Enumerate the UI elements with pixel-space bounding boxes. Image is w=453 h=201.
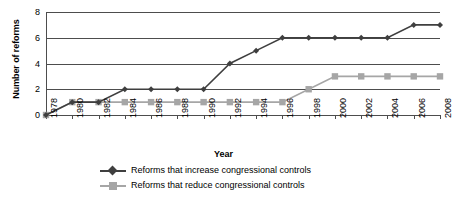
x-tick-label: 1998 <box>313 98 322 118</box>
series-marker-square <box>358 73 364 79</box>
legend-label-reduce: Reforms that reduce congressional contro… <box>131 180 305 191</box>
y-tick-label: 4 <box>22 60 40 69</box>
x-tick-label: 1988 <box>181 98 190 118</box>
x-tick <box>99 115 100 119</box>
x-tick-label: 1986 <box>155 98 164 118</box>
legend-label-increase: Reforms that increase congressional cont… <box>131 165 311 176</box>
x-tick <box>309 115 310 119</box>
x-tick <box>361 115 362 119</box>
x-tick-label: 1984 <box>129 98 138 118</box>
legend-marker-diamond-icon <box>100 165 126 176</box>
x-tick <box>72 115 73 119</box>
x-tick-label: 2004 <box>391 98 400 118</box>
x-tick <box>387 115 388 119</box>
x-tick-label: 1996 <box>286 98 295 118</box>
series-marker-diamond <box>358 35 364 41</box>
y-tick-label: 2 <box>22 85 40 94</box>
x-tick-label: 2008 <box>444 98 453 118</box>
series-marker-diamond <box>306 35 312 41</box>
x-tick <box>151 115 152 119</box>
x-tick-label: 1994 <box>260 98 269 118</box>
x-tick <box>282 115 283 119</box>
series-marker-square <box>305 86 311 92</box>
legend-marker-square-icon <box>100 180 126 191</box>
x-tick-label: 2002 <box>365 98 374 118</box>
x-tick <box>440 115 441 119</box>
x-tick-label: 2006 <box>418 98 427 118</box>
series-marker-square <box>411 73 417 79</box>
x-tick <box>230 115 231 119</box>
series-marker-square <box>384 73 390 79</box>
series-marker-square <box>200 99 206 105</box>
legend-item-increase: Reforms that increase congressional cont… <box>0 163 447 178</box>
x-tick-label: 1992 <box>234 98 243 118</box>
x-tick-label: 1978 <box>50 98 59 118</box>
x-tick <box>256 115 257 119</box>
series-marker-diamond <box>253 48 259 54</box>
x-tick-label: 1990 <box>208 98 217 118</box>
series-marker-diamond <box>174 86 180 92</box>
x-tick <box>125 115 126 119</box>
series-marker-diamond <box>384 35 390 41</box>
y-tick-label: 8 <box>22 8 40 17</box>
x-tick-label: 1980 <box>76 98 85 118</box>
x-tick-label: 2000 <box>339 98 348 118</box>
legend-item-reduce: Reforms that reduce congressional contro… <box>0 178 447 193</box>
x-tick-label: 1982 <box>103 98 112 118</box>
series-marker-diamond <box>148 86 154 92</box>
y-tick-label: 6 <box>22 34 40 43</box>
series-marker-diamond <box>122 86 128 92</box>
chart-legend: Reforms that increase congressional cont… <box>0 163 447 193</box>
x-tick <box>414 115 415 119</box>
x-axis-title: Year <box>0 149 447 159</box>
series-marker-square <box>437 73 443 79</box>
y-tick-label: 0 <box>22 111 40 120</box>
series-marker-diamond <box>279 35 285 41</box>
x-tick <box>177 115 178 119</box>
series-marker-diamond <box>411 22 417 28</box>
x-tick <box>204 115 205 119</box>
series-marker-diamond <box>332 35 338 41</box>
series-marker-square <box>332 73 338 79</box>
x-tick <box>335 115 336 119</box>
